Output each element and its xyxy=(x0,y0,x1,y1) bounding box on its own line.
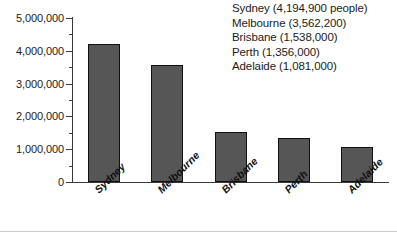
y-axis-tick-label: 2,000,000 xyxy=(2,111,64,122)
y-axis-tick-label: 4,000,000 xyxy=(2,46,64,57)
legend: Sydney (4,194,900 people) Melbourne (3,5… xyxy=(232,1,397,74)
y-axis-tick-label: 3,000,000 xyxy=(2,79,64,90)
bar-sydney xyxy=(88,44,120,182)
y-axis-tick-label: 1,000,000 xyxy=(2,144,64,155)
legend-item: Melbourne (3,562,200) xyxy=(232,16,397,31)
y-axis-line xyxy=(72,17,73,183)
y-axis-tick-label: 5,000,000 xyxy=(2,13,64,24)
legend-item: Perth (1,356,000) xyxy=(232,45,397,60)
legend-item: Adelaide (1,081,000) xyxy=(232,59,397,74)
legend-item: Sydney (4,194,900 people) xyxy=(232,1,397,16)
legend-item: Brisbane (1,538,000) xyxy=(232,30,397,45)
bottom-margin xyxy=(0,232,397,240)
bar-chart-screenshot: Sydney (4,194,900 people) Melbourne (3,5… xyxy=(0,0,397,240)
y-axis-labels: 5,000,0004,000,0003,000,0002,000,0001,00… xyxy=(0,0,64,240)
y-axis-tick-label: 0 xyxy=(2,177,64,188)
